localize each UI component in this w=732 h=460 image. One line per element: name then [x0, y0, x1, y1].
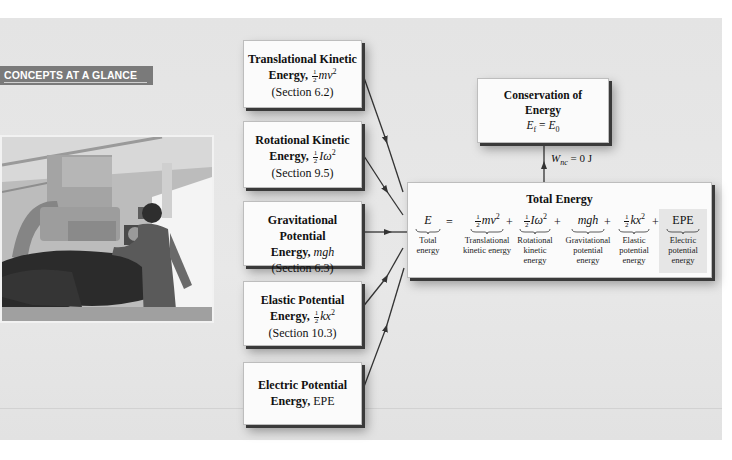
one-half-fraction: 12 — [312, 69, 318, 84]
term-electric-pe: EPE Electricpotentialenergy — [660, 212, 706, 265]
term-rotational-ke: 12Iω2 Rotationalkinetic energy — [514, 212, 556, 265]
total-energy-box: Total Energy E Totalenergy = 12mv2 Trans… — [407, 182, 712, 278]
box-heading: Electric Potential — [244, 377, 361, 393]
box-heading: Elastic Potential — [244, 292, 361, 308]
one-half-fraction: 12 — [314, 310, 320, 325]
rotational-kinetic-energy-box: Rotational Kinetic Energy, 12Iω2 (Sectio… — [243, 121, 362, 188]
box-heading: Gravitational Potential — [244, 212, 361, 244]
section-ref: (Section 6.3) — [244, 260, 361, 276]
section-ref: (Section 6.2) — [244, 84, 361, 100]
underbrace-icon — [618, 228, 650, 234]
section-ref: (Section 9.5) — [244, 165, 361, 181]
electric-potential-energy-box: Electric Potential Energy, EPE — [243, 362, 362, 425]
box-heading: Rotational Kinetic — [244, 132, 361, 148]
underbrace-icon — [571, 228, 605, 234]
translational-kinetic-energy-box: Translational Kinetic Energy, 12mv2 (Sec… — [243, 40, 362, 108]
section-ref: (Section 10.3) — [244, 325, 361, 341]
conservation-of-energy-box: Conservation of Energy Ef = E0 — [477, 78, 609, 143]
elastic-potential-energy-box: Elastic Potential Energy, 12kx2 (Section… — [243, 281, 362, 346]
box-heading: Translational Kinetic — [244, 51, 361, 67]
total-energy-title: Total Energy — [408, 191, 711, 207]
gravitational-potential-energy-box: Gravitational Potential Energy, mgh (Sec… — [243, 201, 362, 266]
nonconservative-work-condition: Wnc = 0 J — [551, 152, 592, 164]
one-half-fraction: 12 — [313, 150, 319, 165]
underbrace-icon — [666, 228, 700, 234]
term-total-energy: E Totalenergy — [414, 212, 442, 255]
term-elastic-pe: 12kx2 Elasticpotentialenergy — [612, 212, 656, 265]
underbrace-icon — [415, 228, 441, 234]
conservation-equation: Ef = E0 — [478, 118, 608, 133]
